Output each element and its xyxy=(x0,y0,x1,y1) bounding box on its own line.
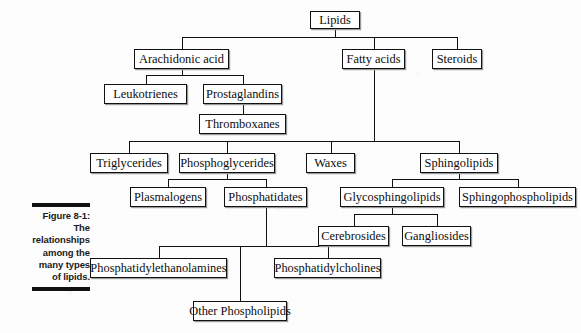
node-label: Glycosphingolipids xyxy=(343,191,440,203)
connector-lipids-fatty_acids xyxy=(374,37,375,49)
node-label: Steroids xyxy=(437,53,478,65)
connector-phosphatidates-stem xyxy=(266,207,267,246)
caption-rule-top xyxy=(32,203,90,207)
node-prostaglandins: Prostaglandins xyxy=(203,84,282,104)
connector-fatty_acids-stem xyxy=(374,69,375,141)
node-fatty_acids: Fatty acids xyxy=(342,49,405,69)
node-phosphatidates: Phosphatidates xyxy=(224,187,307,207)
connector-sphingolipids-bus xyxy=(392,179,518,180)
node-label: Waxes xyxy=(314,157,347,169)
node-waxes: Waxes xyxy=(306,153,355,173)
caption-line-5: of lipids. xyxy=(18,271,90,283)
node-cerebrosides: Cerebrosides xyxy=(318,226,389,246)
node-glycosphingolipids: Glycosphingolipids xyxy=(340,187,444,207)
connector-phosphatidates-phosphatidylethanolamines xyxy=(159,246,160,258)
connector-phosphoglycerides-plasmalogens xyxy=(168,179,169,187)
node-label: Phosphatidates xyxy=(228,191,302,203)
connector-fatty_acids-triglycerides xyxy=(129,141,130,153)
node-label: Other Phospholipids xyxy=(189,305,291,317)
caption-line-3: among the xyxy=(18,247,90,259)
node-label: Gangliosides xyxy=(404,230,469,242)
connector-phosphatidates-bus xyxy=(159,246,328,247)
connector-sphingolipids-sphingophospholipids xyxy=(518,179,519,187)
node-label: Triglycerides xyxy=(96,157,162,169)
node-phosphoglycerides: Phosphoglycerides xyxy=(179,153,275,173)
caption-line-1: The xyxy=(18,222,90,234)
node-gangliosides: Gangliosides xyxy=(402,226,471,246)
connector-arachidonic_acid-prostaglandins xyxy=(243,75,244,84)
node-lipids: Lipids xyxy=(310,11,360,29)
node-label: Lipids xyxy=(319,14,351,26)
node-label: Thromboxanes xyxy=(205,118,279,130)
node-label: Phosphoglycerides xyxy=(180,157,274,169)
connector-phosphatidates-other_phospholipids xyxy=(240,246,241,301)
node-label: Phosphatidylethanolamines xyxy=(90,262,226,274)
caption-rule-bottom xyxy=(32,287,90,291)
connector-arachidonic_acid-bus xyxy=(146,75,243,76)
connector-lipids-stem xyxy=(335,29,336,37)
figure-number-label: Figure 8-1: xyxy=(18,210,90,222)
connector-glycosphingolipids-bus xyxy=(354,214,437,215)
connector-glycosphingolipids-gangliosides xyxy=(437,214,438,226)
node-leukotrienes: Leukotrienes xyxy=(104,84,187,104)
connector-lipids-bus xyxy=(182,37,458,38)
node-label: Sphingophospholipids xyxy=(462,191,573,203)
node-thromboxanes: Thromboxanes xyxy=(199,114,286,134)
connector-fatty_acids-bus xyxy=(129,141,459,142)
node-label: Leukotrienes xyxy=(113,88,178,100)
node-sphingophospholipids: Sphingophospholipids xyxy=(459,187,576,207)
connector-phosphatidates-phosphatidylcholines xyxy=(328,246,329,258)
connector-prostaglandins-thromboxanes xyxy=(243,104,244,114)
figure-canvas: Figure 8-1: The relationships among the … xyxy=(0,0,581,333)
node-phosphatidylcholines: Phosphatidylcholines xyxy=(274,258,381,278)
node-sphingolipids: Sphingolipids xyxy=(420,153,498,173)
connector-sphingolipids-glycosphingolipids xyxy=(392,179,393,187)
connector-lipids-arachidonic_acid xyxy=(182,37,183,49)
connector-phosphoglycerides-phosphatidates xyxy=(266,179,267,187)
connector-arachidonic_acid-leukotrienes xyxy=(146,75,147,84)
node-label: Sphingolipids xyxy=(425,157,494,169)
node-label: Fatty acids xyxy=(346,53,400,65)
node-label: Arachidonic acid xyxy=(139,53,224,65)
caption-line-2: relationships xyxy=(18,234,90,246)
node-label: Phosphatidylcholines xyxy=(275,262,381,274)
connector-phosphoglycerides-bus xyxy=(168,179,266,180)
connector-glycosphingolipids-cerebrosides xyxy=(354,214,355,226)
node-triglycerides: Triglycerides xyxy=(90,153,168,173)
node-label: Cerebrosides xyxy=(321,230,386,242)
node-other_phospholipids: Other Phospholipids xyxy=(193,301,287,321)
connector-fatty_acids-sphingolipids xyxy=(459,141,460,153)
connector-fatty_acids-waxes xyxy=(331,141,332,153)
node-plasmalogens: Plasmalogens xyxy=(130,187,206,207)
figure-caption: Figure 8-1: The relationships among the … xyxy=(18,203,90,291)
node-steroids: Steroids xyxy=(432,49,482,69)
caption-line-4: many types xyxy=(18,259,90,271)
node-label: Prostaglandins xyxy=(206,88,279,100)
node-arachidonic_acid: Arachidonic acid xyxy=(134,49,229,69)
node-label: Plasmalogens xyxy=(134,191,202,203)
node-phosphatidylethanolamines: Phosphatidylethanolamines xyxy=(90,258,227,278)
connector-glycosphingolipids-stem xyxy=(392,207,393,214)
connector-lipids-steroids xyxy=(457,37,458,49)
connector-fatty_acids-phosphoglycerides xyxy=(227,141,228,153)
